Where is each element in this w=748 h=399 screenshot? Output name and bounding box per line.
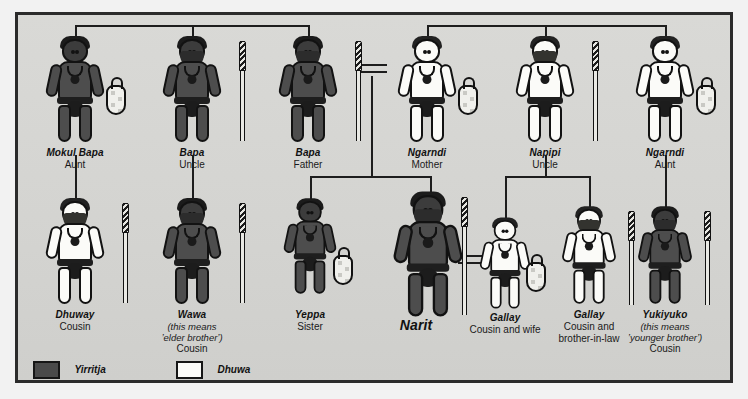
- dilly-bag-icon: [333, 255, 353, 285]
- figure-body: [634, 39, 696, 143]
- dhuwa-label: Dhuwa: [217, 364, 250, 375]
- marriage-drop-father-mother: [371, 76, 373, 177]
- leg-left-icon: [410, 105, 423, 142]
- descent-mokul-bapa-to-dhuway: [75, 155, 77, 199]
- figure-ngarndi-mother: [372, 39, 482, 147]
- person-ngarndi-aunt[interactable]: Ngarndi Aunt: [610, 39, 720, 171]
- spear-icon: [593, 41, 598, 141]
- descent-to-yeppa: [310, 176, 312, 199]
- pendant-icon: [71, 237, 80, 246]
- person-name: Yukiyuko: [610, 309, 720, 321]
- spear-icon: [356, 41, 361, 141]
- legend-dhuwa: Dhuwa: [176, 360, 250, 379]
- person-note: (this means ʼyounger brotherʼ): [610, 321, 720, 343]
- leg-left-icon: [648, 105, 661, 142]
- eye-right-icon: [665, 50, 669, 54]
- person-relation: Father: [253, 159, 363, 171]
- person-dhuway[interactable]: Dhuway Cousin: [20, 201, 130, 333]
- legend-yirritja: Yirritja: [33, 360, 106, 379]
- figure-body: [44, 39, 106, 143]
- leg-left-icon: [295, 260, 307, 293]
- pendant-icon: [71, 75, 80, 84]
- head-icon: [652, 39, 678, 63]
- person-name: Dhuway: [20, 309, 130, 321]
- figure-bapa-father: [253, 39, 363, 147]
- figure-body: [44, 201, 106, 305]
- head-icon: [62, 39, 88, 63]
- leg-left-icon: [490, 277, 501, 309]
- spear-icon: [240, 203, 245, 303]
- spear-icon: [123, 203, 128, 303]
- figure-wawa: [137, 201, 247, 309]
- head-icon: [414, 39, 440, 63]
- dilly-bag-icon: [458, 85, 478, 115]
- figure-body: [514, 39, 576, 143]
- head-icon: [494, 220, 516, 241]
- pendant-icon: [188, 75, 197, 84]
- leg-left-icon: [175, 267, 188, 304]
- spear-icon: [705, 211, 710, 305]
- figure-mokul-bapa: [20, 39, 130, 147]
- person-relation: Cousin: [20, 321, 130, 333]
- leg-right-icon: [431, 105, 444, 142]
- leg-right-icon: [79, 267, 92, 304]
- figure-body: [636, 209, 693, 305]
- yirritja-label: Yirritja: [74, 364, 105, 375]
- person-name: Wawa: [137, 309, 247, 321]
- leg-right-icon: [314, 260, 326, 293]
- pendant-icon: [304, 75, 313, 84]
- person-relation: Mother: [372, 159, 482, 171]
- pendant-icon: [585, 242, 593, 250]
- yirritja-swatch: [33, 361, 60, 379]
- kinship-diagram-stage: Mokul Bapa Aunt: [0, 0, 748, 399]
- person-yeppa[interactable]: Yeppa Sister: [255, 201, 365, 333]
- figure-body: [161, 39, 223, 143]
- pendant-icon: [501, 251, 509, 259]
- person-note: (this means ʼelder brotherʼ): [137, 321, 247, 343]
- leg-right-icon: [669, 105, 682, 142]
- person-bapa-uncle[interactable]: Bapa Uncle: [137, 39, 247, 171]
- pendant-icon: [541, 75, 550, 84]
- leg-right-icon: [312, 105, 325, 142]
- person-ngarndi-mother[interactable]: Ngarndi Mother: [372, 39, 482, 171]
- figure-yukiyuko: [610, 209, 720, 309]
- leg-right-icon: [79, 105, 92, 142]
- person-bapa-father[interactable]: Bapa Father: [253, 39, 363, 171]
- person-relation: Cousin: [137, 343, 247, 355]
- leg-right-icon: [433, 273, 448, 317]
- dhuwa-swatch: [176, 361, 203, 379]
- diagram-frame: Mokul Bapa Aunt: [15, 12, 733, 383]
- dilly-bag-icon: [106, 85, 126, 115]
- person-relation: Cousin: [610, 343, 720, 355]
- eye-right-icon: [427, 50, 431, 54]
- pendant-icon: [661, 75, 670, 84]
- pendant-icon: [661, 242, 669, 250]
- leg-left-icon: [528, 105, 541, 142]
- children-bar-father-mother: [310, 176, 432, 178]
- person-wawa[interactable]: Wawa (this means ʼelder brotherʼ) Cousin: [137, 201, 247, 355]
- leg-left-icon: [175, 105, 188, 142]
- figure-body: [161, 201, 223, 305]
- leg-left-icon: [58, 105, 71, 142]
- person-name: Bapa: [253, 147, 363, 159]
- eye-right-icon: [310, 211, 314, 215]
- figure-bapa-uncle: [137, 39, 247, 147]
- figure-napipi: [490, 39, 600, 147]
- person-napipi[interactable]: Napipi Uncle: [490, 39, 600, 171]
- person-mokul-bapa[interactable]: Mokul Bapa Aunt: [20, 39, 130, 171]
- person-yukiyuko[interactable]: Yukiyuko (this means ʼyounger brotherʼ) …: [610, 209, 720, 355]
- figure-body: [282, 201, 338, 295]
- figure-dhuway: [20, 201, 130, 309]
- person-name: Ngarndi: [372, 147, 482, 159]
- leg-right-icon: [593, 270, 605, 304]
- figure-yeppa: [255, 201, 365, 309]
- leg-left-icon: [649, 270, 661, 304]
- pendant-icon: [306, 233, 314, 241]
- dilly-bag-icon: [696, 85, 716, 115]
- leg-right-icon: [508, 277, 519, 309]
- descent-stem-napipi: [545, 155, 547, 176]
- leg-right-icon: [196, 267, 209, 304]
- figure-body: [560, 209, 617, 305]
- children-bar-napipi: [505, 176, 591, 178]
- pendant-icon: [423, 237, 434, 248]
